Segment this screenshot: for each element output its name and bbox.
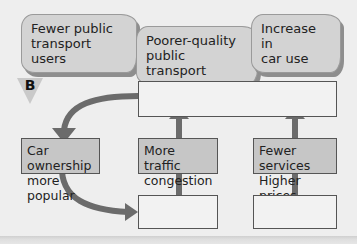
box-bottom-middle-empty <box>138 195 218 229</box>
box-car-ownership-more-popular: Car ownership more popular <box>21 138 100 174</box>
box-fewer-services-higher-prices: Fewer services Higher prices <box>253 138 337 174</box>
curved-arrow-top-to-car <box>64 96 138 130</box>
box-bottom-right-empty <box>253 195 337 229</box>
box-more-traffic-congestion: More traffic congestion <box>138 138 218 174</box>
arrowhead-right-bottom <box>125 203 138 221</box>
page-bottom-rule <box>0 236 357 244</box>
box-top-wide-empty <box>138 81 337 117</box>
diagram-page: Fewer public transport users Poorer-qual… <box>0 0 357 236</box>
